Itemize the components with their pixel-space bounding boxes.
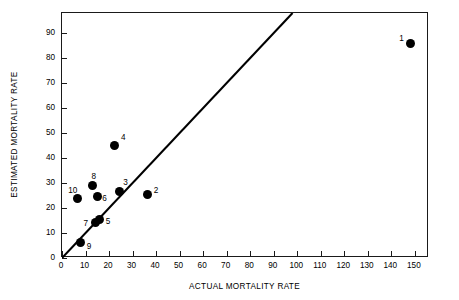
x-tick-label: 0 [48,261,74,270]
data-point [73,194,82,203]
x-tick-mark [203,251,204,256]
x-tick-label: 10 [72,261,98,270]
x-tick-mark [62,251,63,256]
data-point [88,181,97,190]
x-tick-label: 20 [95,261,121,270]
y-axis-title: ESTIMATED MORTALITY RATE [8,12,22,257]
data-point-label: 4 [121,133,126,142]
x-tick-mark [86,251,87,256]
x-tick-mark [297,251,298,256]
x-tick-label: 120 [330,261,356,270]
x-tick-mark [180,251,181,256]
y-tick-mark [62,258,67,259]
y-tick-mark [62,208,67,209]
x-tick-label: 80 [236,261,262,270]
x-tick-mark [133,251,134,256]
y-tick-label: 40 [29,153,55,162]
y-tick-mark [62,108,67,109]
y-tick-label: 50 [29,128,55,137]
x-tick-label: 40 [142,261,168,270]
y-tick-label: 60 [29,103,55,112]
plot-area: 12345678910 [61,12,428,257]
y-tick-label: 30 [29,178,55,187]
x-tick-mark [415,251,416,256]
data-point-label: 10 [68,186,77,195]
data-point-label: 8 [92,172,97,181]
data-point [110,141,119,150]
x-tick-mark [344,251,345,256]
y-tick-mark [62,83,67,84]
data-point [93,192,102,201]
data-point-label: 1 [399,34,404,43]
y-tick-mark [62,183,67,184]
x-tick-label: 130 [354,261,380,270]
scatter-plot-figure: ESTIMATED MORTALITY RATE ACTUAL MORTALIT… [0,0,459,300]
y-tick-mark [62,158,67,159]
x-tick-mark [321,251,322,256]
y-tick-mark [62,233,67,234]
x-tick-mark [227,251,228,256]
y-tick-label: 70 [29,78,55,87]
x-tick-mark [368,251,369,256]
data-point-label: 5 [106,217,111,226]
y-tick-label: 20 [29,203,55,212]
y-tick-mark [62,133,67,134]
x-tick-mark [156,251,157,256]
y-tick-mark [62,33,67,34]
x-tick-label: 50 [166,261,192,270]
x-tick-label: 90 [260,261,286,270]
data-point [115,187,124,196]
x-tick-label: 140 [377,261,403,270]
x-tick-mark [391,251,392,256]
y-tick-label: 10 [29,228,55,237]
data-point-label: 7 [83,219,88,228]
y-tick-label: 80 [29,53,55,62]
x-axis-title: ACTUAL MORTALITY RATE [61,282,428,291]
x-tick-label: 150 [401,261,427,270]
x-tick-label: 30 [119,261,145,270]
y-tick-mark [62,58,67,59]
data-point-label: 9 [87,242,92,251]
x-tick-mark [250,251,251,256]
identity-reference-line [62,13,429,258]
data-point [91,218,100,227]
data-point [76,238,85,247]
x-tick-label: 60 [189,261,215,270]
data-point [406,39,415,48]
x-tick-label: 100 [283,261,309,270]
y-tick-label: 90 [29,28,55,37]
y-tick-label: 0 [29,253,55,262]
x-tick-label: 70 [213,261,239,270]
x-tick-label: 110 [307,261,333,270]
data-point-label: 3 [123,178,128,187]
data-point-label: 2 [154,186,159,195]
data-point-label: 6 [102,194,107,203]
x-tick-mark [109,251,110,256]
x-tick-mark [274,251,275,256]
data-point [143,190,152,199]
